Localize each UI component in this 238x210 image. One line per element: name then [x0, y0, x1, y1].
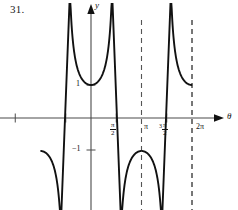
fraction-denominator: 2	[162, 130, 168, 137]
x-tick-label-2pi: 2π	[196, 122, 204, 131]
figure-container: 31.	[0, 0, 238, 210]
exercise-number: 31.	[10, 3, 25, 15]
y-axis-label: y	[95, 0, 99, 10]
fraction-pi-over-2-second: π 2	[162, 122, 168, 137]
curve-branch-lower-minus-pi-0	[41, 4, 90, 210]
secant-graph-plot	[0, 0, 238, 210]
curve-branch-upper-0-pi	[92, 4, 141, 210]
x-tick-label-pi: π	[144, 122, 148, 131]
curve-branch-lower-pi-2pi	[142, 4, 191, 210]
y-axis-arrowhead	[87, 4, 94, 14]
fraction-pi-over-2: π 2	[110, 122, 116, 137]
y-tick-label-1: 1	[76, 79, 80, 88]
x-axis-label: θ	[227, 111, 231, 121]
curve-group	[41, 4, 191, 210]
y-tick-label-minus-1: −1	[72, 144, 81, 153]
x-axis-arrowhead	[214, 114, 224, 122]
x-tick-label-pi-over-2: π 2	[110, 122, 116, 137]
fraction-denominator: 2	[110, 130, 116, 137]
x-tick-label-3pi-over-2: 3 π 2	[159, 122, 168, 137]
y-axis	[87, 4, 94, 210]
